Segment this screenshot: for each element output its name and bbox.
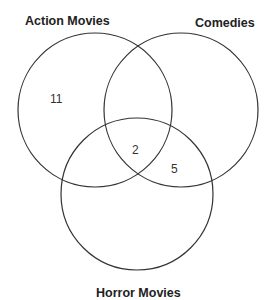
label-action-movies: Action Movies [25, 14, 110, 28]
region-action-only-count: 11 [50, 92, 62, 106]
circle-comedies [104, 33, 258, 187]
circle-horror-movies [61, 118, 213, 270]
label-comedies: Comedies [195, 16, 255, 30]
region-all-three-count: 2 [132, 143, 139, 157]
label-horror-movies: Horror Movies [96, 286, 181, 300]
circle-action-movies [18, 33, 172, 187]
region-comedies-horror-count: 5 [171, 162, 178, 176]
